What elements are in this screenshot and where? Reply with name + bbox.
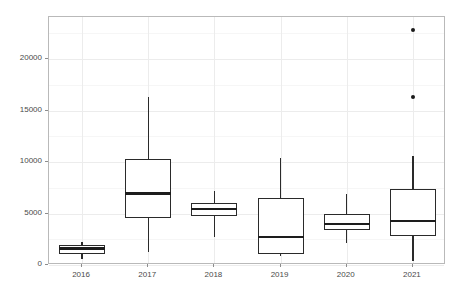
x-tick-label-2019: 2019: [256, 270, 304, 279]
gridline-y-20000: [49, 59, 444, 60]
gridline-y-0: [49, 265, 444, 266]
outlier-2021-1: [411, 28, 415, 32]
box-2021: [390, 17, 436, 265]
gridline-y-5000: [49, 214, 444, 215]
box-iqr-2021: [390, 189, 436, 236]
whisker-lower-2018: [214, 216, 215, 237]
box-2019: [258, 17, 304, 265]
median-2017: [125, 192, 171, 194]
gridline-minor-y-7500: [49, 188, 444, 189]
whisker-upper-2020: [346, 194, 347, 214]
y-tick-label-20000: 20000: [2, 54, 42, 62]
y-tick-label-10000: 10000: [2, 157, 42, 165]
median-2018: [191, 208, 237, 210]
gridline-y-15000: [49, 111, 444, 112]
whisker-lower-2016: [81, 254, 82, 259]
whisker-upper-2017: [148, 97, 149, 159]
y-tick-label-0: 0: [2, 260, 42, 268]
gridline-minor-y-2500: [49, 239, 444, 240]
y-tick-mark-5000: [45, 213, 48, 214]
whisker-lower-2021: [412, 236, 413, 261]
x-tick-label-2021: 2021: [388, 270, 436, 279]
x-tick-label-2017: 2017: [123, 270, 171, 279]
whisker-lower-2019: [280, 254, 281, 256]
gridline-minor-y-22500: [49, 33, 444, 34]
plot-panel: [48, 16, 445, 264]
box-2017: [125, 17, 171, 265]
y-tick-label-15000: 15000: [2, 106, 42, 114]
whisker-lower-2017: [148, 218, 149, 253]
median-2021: [390, 220, 436, 222]
whisker-lower-2020: [346, 230, 347, 243]
box-2018: [191, 17, 237, 265]
x-tick-mark-2018: [213, 264, 214, 267]
median-2019: [258, 236, 304, 238]
median-2020: [324, 223, 370, 225]
x-tick-mark-2019: [280, 264, 281, 267]
x-tick-mark-2017: [147, 264, 148, 267]
box-2020: [324, 17, 370, 265]
box-2016: [59, 17, 105, 265]
y-tick-label-5000: 5000: [2, 209, 42, 217]
y-tick-mark-0: [45, 264, 48, 265]
x-tick-label-2016: 2016: [57, 270, 105, 279]
x-tick-mark-2020: [346, 264, 347, 267]
y-tick-mark-10000: [45, 161, 48, 162]
x-tick-mark-2021: [412, 264, 413, 267]
gridline-minor-y-12500: [49, 136, 444, 137]
whisker-upper-2018: [214, 191, 215, 203]
box-plot-chart: Number of signatures (national projects)…: [0, 0, 461, 294]
x-tick-label-2018: 2018: [189, 270, 237, 279]
y-tick-mark-20000: [45, 58, 48, 59]
box-iqr-2019: [258, 198, 304, 255]
y-tick-mark-15000: [45, 110, 48, 111]
whisker-upper-2021: [412, 156, 413, 188]
whisker-upper-2019: [280, 158, 281, 197]
gridline-y-10000: [49, 162, 444, 163]
x-tick-mark-2016: [81, 264, 82, 267]
gridline-minor-y-17500: [49, 85, 444, 86]
box-iqr-2017: [125, 159, 171, 218]
median-2016: [59, 247, 105, 249]
x-tick-label-2020: 2020: [322, 270, 370, 279]
outlier-2021-0: [411, 95, 415, 99]
